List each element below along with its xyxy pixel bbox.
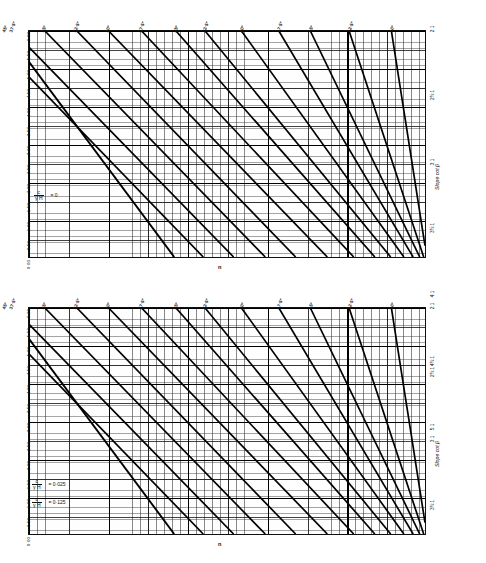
chart-panel-top: c γ H = 0 6·005·505·004·504·003·503·002·…: [0, 0, 486, 290]
y-tick-label: 6·00: [26, 32, 31, 41]
phi-line: [391, 31, 425, 246]
chart-panel-bottom: c γ H = 0·025 c γ H = 0·125 6·005·505·00…: [0, 290, 486, 563]
formula-annotation-bottom: c γ H = 0·025: [32, 479, 66, 491]
y-tick-label: 4·50: [26, 89, 31, 98]
y-tick-label: 0·50: [26, 241, 31, 250]
plot-area-bottom: c γ H = 0·025 c γ H = 0·125 6·005·505·00…: [28, 307, 426, 535]
y-tick-label: 2·00: [26, 184, 31, 193]
x-tick-label: 2:1: [430, 26, 435, 32]
phi-line-family-top: [29, 31, 425, 257]
y-tick-label: 4·50: [26, 366, 31, 375]
y-tick-label: 4·00: [26, 385, 31, 394]
plot-frame-bottom: [28, 307, 426, 535]
y-tick-label: 3·50: [26, 404, 31, 413]
y-axis-title-bottom: n: [218, 541, 221, 547]
phi-line: [29, 31, 203, 257]
y-tick-label: 0·00: [26, 260, 31, 269]
y-tick-label: 2·00: [26, 461, 31, 470]
y-tick-label: 1·50: [26, 480, 31, 489]
phi-line: [77, 308, 296, 534]
x-tick-label: 2:1: [430, 303, 435, 309]
formula-equals: = 0: [50, 193, 58, 198]
x-axis-title-top: Slope cot β: [434, 164, 440, 190]
phi-line: [349, 31, 424, 257]
figure-page: c γ H = 0 6·005·505·004·504·003·503·002·…: [0, 0, 486, 563]
y-tick-label: 0·00: [26, 537, 31, 546]
y-tick-label: 2·50: [26, 442, 31, 451]
y-tick-label: 5·00: [26, 70, 31, 79]
phi-line-label: 37·5°: [9, 298, 18, 310]
phi-line-label: 45°: [1, 302, 8, 310]
y-tick-label: 1·00: [26, 222, 31, 231]
formula-denominator: γ H: [32, 503, 42, 508]
phi-line: [176, 308, 375, 534]
phi-line: [77, 31, 296, 257]
x-tick-label: 2½:1: [430, 367, 435, 377]
x-axis-title-bottom: Slope cot β: [434, 441, 440, 467]
y-tick-label: 1·50: [26, 203, 31, 212]
y-tick-label: 5·50: [26, 51, 31, 60]
y-tick-label: 2·50: [26, 165, 31, 174]
formula-equals: = 0·125: [48, 500, 66, 505]
phi-line: [176, 31, 375, 257]
y-tick-label: 3·00: [26, 423, 31, 432]
y-tick-label: 5·00: [26, 347, 31, 356]
y-tick-label: 4·00: [26, 108, 31, 117]
x-tick-label: 2½:1: [430, 90, 435, 100]
x-tick-label: 3½:1: [430, 500, 435, 510]
formula-equals: = 0·025: [48, 482, 66, 487]
phi-line: [109, 308, 328, 534]
formula-denominator: γ H: [34, 196, 44, 201]
formula-denominator: γ H: [32, 485, 42, 490]
x-tick-label: 3½:1: [430, 223, 435, 233]
phi-line: [391, 308, 425, 523]
phi-line: [349, 308, 424, 534]
phi-line: [310, 31, 419, 257]
phi-line-family-bottom: [29, 308, 425, 534]
formula-annotation-top: c γ H = 0: [34, 190, 58, 202]
y-tick-label: 6·00: [26, 309, 31, 318]
y-axis-title-top: n: [218, 264, 221, 270]
phi-line-label: 37·5°: [9, 21, 18, 33]
formula-annotation-bottom-2: c γ H = 0·125: [32, 497, 66, 509]
y-tick-label: 3·00: [26, 146, 31, 155]
phi-line-label: 45°: [1, 25, 8, 33]
plot-area-top: c γ H = 0 6·005·505·004·504·003·503·002·…: [28, 30, 426, 258]
plot-frame-top: [28, 30, 426, 258]
phi-line: [29, 31, 174, 257]
phi-line: [29, 31, 234, 257]
y-tick-label: 0·50: [26, 518, 31, 527]
y-tick-label: 1·00: [26, 499, 31, 508]
y-tick-label: 5·50: [26, 328, 31, 337]
phi-line: [109, 31, 328, 257]
phi-line: [310, 308, 419, 534]
y-tick-label: 3·50: [26, 127, 31, 136]
